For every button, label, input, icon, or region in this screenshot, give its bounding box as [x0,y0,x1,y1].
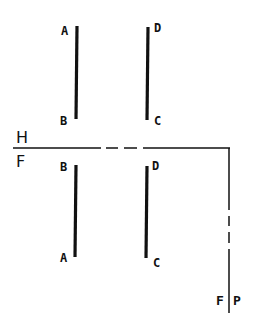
top-view: A B D C [60,21,161,128]
label-a-front: A [60,251,68,265]
segment-dc-top [147,27,148,120]
segment-dc-front [146,166,147,258]
label-plane-p-side: P [233,293,241,308]
label-a-top: A [61,24,69,38]
projection-diagram: A B D C H F F P B A D C [0,0,257,328]
segment-ba-front [75,165,76,257]
label-plane-f-side: F [216,293,224,308]
label-d-front: D [152,159,159,173]
label-d-top: D [154,21,161,35]
label-b-front: B [60,160,67,174]
label-c-front: C [153,256,160,270]
label-c-top: C [154,114,161,128]
label-plane-h: H [16,128,28,147]
segment-ab-top [76,26,77,119]
front-view: B A D C [60,159,160,270]
label-plane-f: F [16,152,25,171]
label-b-top: B [60,114,67,128]
